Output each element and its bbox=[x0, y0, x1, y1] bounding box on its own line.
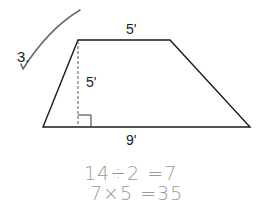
problem-number: 3. bbox=[17, 48, 30, 65]
trapezoid-shape bbox=[43, 40, 250, 127]
top-base-label: 5' bbox=[126, 21, 136, 37]
worksheet-figure: 3. 5' 5' 9' 14÷2 =7 7×5 =35 bbox=[0, 0, 263, 223]
height-label: 5' bbox=[86, 74, 96, 90]
right-angle-marker bbox=[78, 115, 91, 127]
bottom-base-label: 9' bbox=[126, 132, 136, 148]
work-line-2: 7×5 =35 bbox=[90, 182, 183, 204]
check-mark-icon bbox=[21, 10, 80, 69]
work-line-1: 14÷2 =7 bbox=[84, 162, 177, 184]
